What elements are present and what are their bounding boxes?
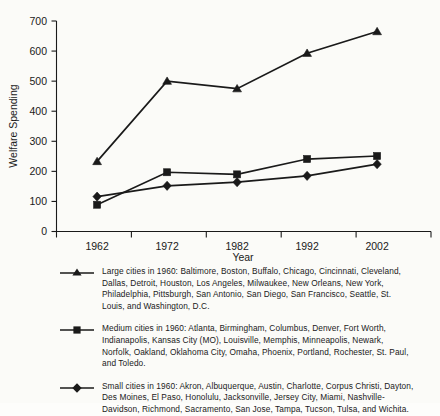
diamond-data-point: [233, 178, 241, 187]
series-line: [97, 32, 377, 162]
diamond-marker-icon: [60, 382, 94, 394]
square-data-point: [304, 156, 311, 163]
x-tick-label: 2002: [365, 240, 389, 252]
legend-item-large: Large cities in 1960: Baltimore, Boston,…: [0, 266, 440, 312]
series-group: [93, 27, 382, 208]
y-tick-label: 600: [29, 45, 47, 57]
legend-label-small: Small cities in 1960: Akron, Albuquerque…: [102, 381, 418, 416]
x-tick-label: 1962: [85, 240, 109, 252]
diamond-data-point: [373, 160, 381, 169]
x-tick-group: 19621972198219922002: [57, 232, 432, 253]
legend-label-large: Large cities in 1960: Baltimore, Boston,…: [102, 266, 418, 312]
diamond-data-point: [93, 192, 101, 201]
y-tick-label: 200: [29, 165, 47, 177]
triangle-data-point: [373, 27, 382, 34]
diamond-data-point: [303, 171, 311, 180]
y-tick-label: 500: [29, 75, 47, 87]
x-axis-title: Year: [232, 251, 254, 263]
x-tick-label: 1992: [295, 240, 319, 252]
y-tick-label: 100: [29, 195, 47, 207]
square-data-point: [374, 153, 381, 160]
y-tick-label: 700: [29, 15, 47, 27]
square-data-point: [164, 169, 171, 176]
diamond-data-point: [163, 181, 171, 190]
y-tick-label: 0: [41, 225, 47, 237]
y-tick-label: 300: [29, 135, 47, 147]
line-chart: Welfare Spending 0100200300400500600700 …: [0, 0, 440, 265]
chart-canvas: Welfare Spending 0100200300400500600700 …: [0, 0, 440, 265]
square-data-point: [94, 201, 101, 208]
y-tick-group: 0100200300400500600700: [29, 15, 56, 238]
legend-label-medium: Medium cities in 1960: Atlanta, Birmingh…: [102, 323, 418, 369]
legend-item-medium: Medium cities in 1960: Atlanta, Birmingh…: [0, 323, 440, 369]
triangle-marker-icon: [60, 267, 94, 279]
square-data-point: [234, 171, 241, 178]
square-marker-icon: [60, 324, 94, 336]
legend-item-small: Small cities in 1960: Akron, Albuquerque…: [0, 381, 440, 416]
y-tick-label: 400: [29, 105, 47, 117]
y-axis-title: Welfare Spending: [7, 84, 19, 167]
x-tick-label: 1972: [155, 240, 179, 252]
chart-legend: Large cities in 1960: Baltimore, Boston,…: [0, 266, 440, 403]
